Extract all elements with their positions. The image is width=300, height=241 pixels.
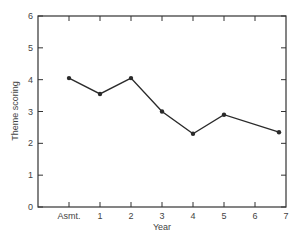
y-tick-label: 3 [28,107,33,117]
data-series [67,76,281,136]
data-point-marker [67,76,71,80]
x-tick-label: 3 [159,211,164,221]
x-tick-label: Asmt. [57,211,80,221]
data-point-marker [160,109,164,113]
x-axis-ticks: Asmt.1234567 [57,16,288,221]
y-axis-label: Theme scoring [10,81,20,141]
x-tick-label: 4 [190,211,195,221]
y-tick-label: 4 [28,75,33,85]
x-tick-label: 6 [252,211,257,221]
data-point-marker [222,112,226,116]
y-tick-label: 1 [28,170,33,180]
data-point-marker [277,130,281,134]
x-tick-label: 2 [128,211,133,221]
x-tick-label: 7 [283,211,288,221]
x-tick-label: 1 [97,211,102,221]
line-chart: 0123456 Asmt.1234567 Year Theme scoring [0,0,300,241]
y-tick-label: 2 [28,138,33,148]
y-tick-label: 0 [28,202,33,212]
y-tick-label: 5 [28,43,33,53]
x-axis-label: Year [153,222,171,232]
data-point-marker [129,76,133,80]
series-line [69,78,279,134]
x-tick-label: 5 [221,211,226,221]
y-axis-ticks: 0123456 [28,11,286,212]
data-point-marker [98,92,102,96]
data-point-marker [191,132,195,136]
y-tick-label: 6 [28,11,33,21]
